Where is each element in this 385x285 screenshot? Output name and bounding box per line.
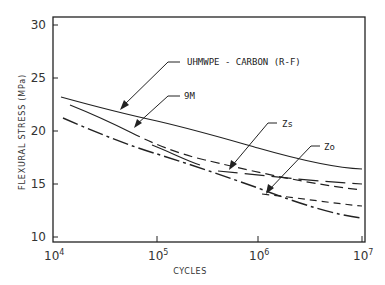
curves: [61, 97, 362, 218]
y-axis-tick-labels: 30 25 20 15 10: [31, 18, 46, 244]
y-axis-title: FLEXURAL STRESS (MPa): [18, 74, 27, 190]
x-tick-1e7: 107: [353, 248, 373, 263]
y-tick-15: 15: [31, 177, 46, 191]
x-tick-1e5: 105: [148, 248, 168, 263]
x-tick-1e4: 104: [44, 248, 64, 263]
curve-uhmwpe-carbon: [61, 97, 362, 169]
label-9m: 9M: [184, 91, 195, 101]
x-tick-1e6: 106: [249, 248, 269, 263]
label-zo: Zo: [324, 142, 335, 152]
curve-zs: [218, 171, 362, 184]
callout-labels: UHMWPE - CARBON (R-F) 9M Zs Zo: [184, 57, 335, 152]
curve-lower-dashdot: [63, 118, 362, 218]
callout-arrowheads: [120, 100, 274, 194]
label-zs: Zs: [282, 119, 293, 129]
x-axis-ticks: [157, 236, 362, 242]
x-axis-title: CYCLES: [173, 267, 207, 276]
x-axis-tick-labels: 104 105 106 107: [44, 248, 373, 263]
curve-9m-solid: [70, 105, 132, 133]
y-tick-30: 30: [31, 18, 46, 32]
leader-uhmwpe: [122, 62, 180, 107]
y-axis-ticks: [53, 25, 58, 237]
y-tick-25: 25: [31, 71, 46, 85]
fatigue-chart: 30 25 20 15 10 104 105 106 107 CYCLES FL…: [0, 0, 385, 285]
y-tick-10: 10: [31, 230, 46, 244]
y-tick-20: 20: [31, 124, 46, 138]
leader-zs: [231, 123, 277, 167]
label-uhmwpe-carbon: UHMWPE - CARBON (R-F): [187, 57, 301, 67]
